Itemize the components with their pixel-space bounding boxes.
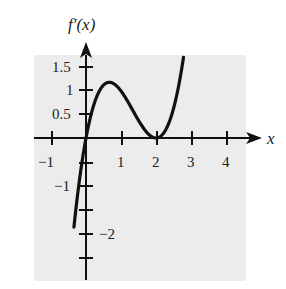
x-axis-title: x: [266, 129, 275, 148]
y-tick-label: −1: [54, 178, 70, 194]
x-tick-label: 4: [222, 154, 230, 170]
y-tick-label: 0.5: [52, 106, 71, 122]
chart: f′(x) x −1 1 2 3 4 1.5 1 0.5 −1 −2: [0, 0, 286, 289]
y-axis-title: f′(x): [68, 15, 96, 34]
x-tick-label: −1: [38, 154, 54, 170]
x-tick-label: 3: [187, 154, 195, 170]
y-tick-label: 1: [66, 82, 74, 98]
x-tick-label: 2: [152, 154, 160, 170]
y-tick-label: 1.5: [52, 59, 71, 75]
x-tick-label: 1: [117, 154, 125, 170]
y-tick-label: −2: [99, 226, 115, 242]
